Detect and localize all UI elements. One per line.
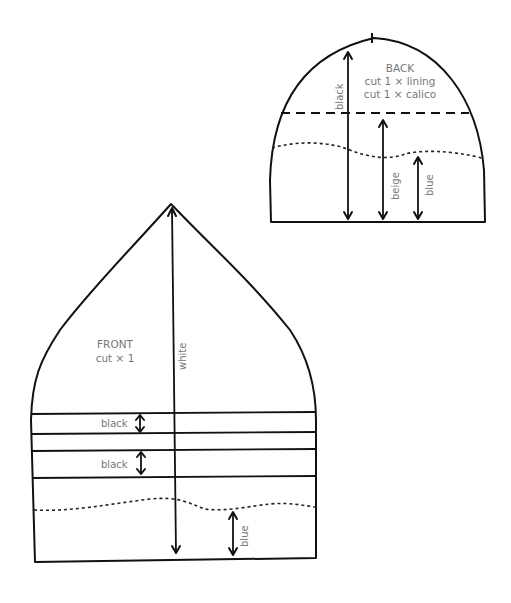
front-white-label: white (177, 343, 188, 370)
back-black-arrow (344, 52, 352, 219)
back-wavy-line (272, 143, 482, 158)
back-beige-arrow (379, 120, 387, 219)
front-instruction: cut × 1 (96, 352, 135, 364)
front-white-arrow (168, 208, 180, 553)
front-title: FRONT (97, 338, 133, 350)
back-title: BACK (386, 62, 416, 74)
front-black-label-2: black (101, 459, 128, 470)
back-instruction-lining: cut 1 × lining (365, 75, 436, 87)
front-black-arrow-2 (137, 452, 145, 474)
back-blue-label: blue (424, 174, 435, 196)
back-outline (270, 38, 485, 222)
back-beige-label: beige (390, 172, 401, 200)
back-instruction-calico: cut 1 × calico (364, 88, 436, 100)
front-blue-arrow (229, 512, 237, 555)
back-blue-arrow (414, 157, 422, 219)
back-pattern-piece: black beige blue BACK cut 1 × lining cut… (270, 33, 485, 222)
front-blue-label: blue (239, 525, 250, 547)
pattern-diagram: black beige blue BACK cut 1 × lining cut… (0, 0, 511, 603)
back-black-label: black (334, 83, 345, 110)
front-black-arrow-1 (136, 415, 144, 432)
front-black-label-1: black (101, 418, 128, 429)
front-pattern-piece: white black black blue FRONT cut × 1 (31, 204, 317, 562)
